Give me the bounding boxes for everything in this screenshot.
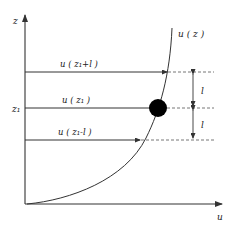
upper-level-label: u ( z₁+l ) xyxy=(60,59,98,69)
u-axis-label: u xyxy=(217,212,223,222)
velocity-profile-curve xyxy=(27,28,172,204)
upper-spacing-label: l xyxy=(201,86,204,96)
middle-level-label: u ( z₁ ) xyxy=(62,95,90,105)
z-axis-label: z xyxy=(12,16,18,26)
fluid-parcel-ball xyxy=(149,99,167,117)
lower-level-label: u ( z₁-l ) xyxy=(58,127,92,137)
mixing-length-diagram: z u z₁ u ( z ) u ( z₁+l ) u ( z₁ ) u ( z… xyxy=(0,0,236,227)
curve-label: u ( z ) xyxy=(178,29,205,39)
z1-tick-label: z₁ xyxy=(11,104,20,114)
lower-spacing-label: l xyxy=(201,120,204,130)
